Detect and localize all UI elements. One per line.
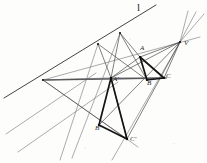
label-point-A: A [140,45,144,52]
label-point-A-prime: A' [113,76,119,83]
dot-C [163,77,165,79]
line-Q-downleft [60,44,98,160]
conn-P-A [120,33,140,57]
conn-P-B [120,33,147,80]
label-point-B-prime: B' [95,125,101,132]
construction-lines [6,11,204,160]
label-point-V: V [184,40,188,47]
label-point-B: B [147,80,151,87]
dot-axis-L [42,79,44,81]
geometry-canvas [0,0,207,163]
seg-B2-C2 [99,125,127,139]
label-line-l: l [137,2,140,13]
line-lower-left-2 [18,82,118,152]
dot-A [139,56,141,58]
line-lower-left-1 [6,73,96,134]
conn-P-A2 [111,33,120,78]
connector-lines [43,33,180,139]
seg-A2-B2 [99,78,111,125]
dot-C-prime [126,138,128,140]
conn-C2-V [127,42,180,139]
dot-axis-Q [97,43,99,45]
dot-V [179,41,181,43]
geometry-figure: l V A B C A' B' C' [0,0,207,163]
dot-A-prime [110,77,112,79]
vertex-dots [42,32,181,140]
label-point-C-prime: C' [130,136,136,143]
spur-V-up-2 [180,12,196,42]
triangle-a2b2c2 [99,78,127,139]
label-point-C: C [166,73,171,80]
dot-axis-P [119,32,121,34]
